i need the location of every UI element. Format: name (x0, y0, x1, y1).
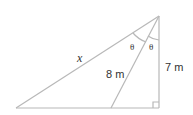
angle-label-right: θ (149, 42, 153, 52)
cevian-line (111, 16, 159, 108)
cevian-label: 8 m (106, 68, 124, 80)
angle-arc-right (148, 36, 159, 40)
hypotenuse-line (16, 16, 159, 108)
triangle-diagram: x 8 m 7 m θ θ (0, 0, 193, 115)
right-angle-marker (153, 102, 159, 108)
vertical-leg-label: 7 m (165, 61, 183, 73)
angle-arc-left (133, 33, 146, 42)
angle-label-left: θ (130, 42, 134, 52)
hypotenuse-label: x (76, 51, 83, 65)
